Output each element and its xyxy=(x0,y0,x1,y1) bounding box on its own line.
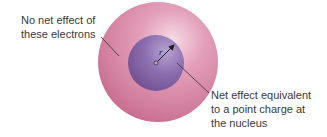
inner-sphere-label: Net effect equivalent to a point charge … xyxy=(211,88,311,130)
nucleus-dot xyxy=(154,61,158,65)
outer-shell-label: No net effect of these electrons xyxy=(21,13,96,41)
outer-shell-label-line-2: these electrons xyxy=(21,27,96,41)
inner-sphere-label-line-2: to a point charge at xyxy=(211,102,311,116)
outer-shell-label-line-1: No net effect of xyxy=(21,13,96,27)
radius-label: r xyxy=(159,47,163,57)
electron-shielding-diagram: r No net effect of these electrons Net e… xyxy=(0,0,327,137)
inner-sphere-label-line-3: the nucleus xyxy=(211,116,311,130)
inner-sphere-label-line-1: Net effect equivalent xyxy=(211,88,311,102)
